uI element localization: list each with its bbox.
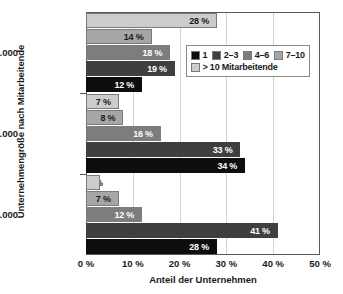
bar: 7 % — [86, 191, 119, 206]
legend-label: > 10 Mitarbeitende — [203, 62, 278, 72]
y-axis-tick — [80, 174, 86, 175]
bar: 19 % — [86, 61, 175, 76]
legend-label: 1 — [203, 50, 208, 60]
bar-chart: Unternehmengröße nach Mitarbeitende 28 %… — [0, 0, 343, 294]
x-axis-title: Anteil der Unternehmen — [86, 274, 320, 285]
bar — [86, 175, 100, 190]
bar-value-label: 7 % — [96, 194, 118, 204]
legend-swatch — [191, 63, 200, 72]
bar-value-label: 12 % — [114, 80, 141, 90]
legend-item[interactable]: 4–6 — [243, 50, 269, 60]
bar: 28 % — [86, 13, 217, 28]
bar-value-label: 28 % — [189, 242, 216, 252]
bar: 34 % — [86, 158, 245, 173]
y-axis-category-label: 500–1.000 — [0, 209, 18, 220]
bar-value-label: 14 % — [124, 32, 151, 42]
legend-label: 7–10 — [286, 50, 305, 60]
bar-value-label: 18 % — [143, 48, 170, 58]
bar: 7 % — [86, 94, 119, 109]
legend-label: 4–6 — [255, 50, 269, 60]
legend-swatch — [212, 51, 221, 60]
bar: 28 % — [86, 239, 217, 254]
legend-item[interactable]: 2–3 — [212, 50, 238, 60]
legend-row: > 10 Mitarbeitende — [191, 61, 305, 73]
bar-value-label: 7 % — [96, 97, 118, 107]
bar-value-label: 8 % — [101, 113, 123, 123]
bar-value-label: 28 % — [189, 16, 216, 26]
legend: 12–34–67–10 > 10 Mitarbeitende — [186, 45, 310, 77]
bar-value-label: 12 % — [114, 210, 141, 220]
bar-value-label: 33 % — [213, 145, 240, 155]
legend-item[interactable]: 1 — [191, 50, 207, 60]
bar: 16 % — [86, 126, 161, 141]
x-axis-tick-label: 40 % — [253, 258, 293, 269]
x-axis-tick-label: 20 % — [160, 258, 200, 269]
legend-label: 2–3 — [224, 50, 238, 60]
bar-value-label: 19 % — [147, 64, 174, 74]
y-axis-tick — [80, 93, 86, 94]
legend-swatch — [274, 51, 283, 60]
bar-value-label: 16 % — [133, 129, 160, 139]
legend-item[interactable]: 7–10 — [274, 50, 305, 60]
legend-item[interactable]: > 10 Mitarbeitende — [191, 62, 278, 72]
x-axis-tick-label: 50 % — [300, 258, 340, 269]
bar: 41 % — [86, 223, 278, 238]
bar-value-label: 34 % — [217, 161, 244, 171]
bar: 12 % — [86, 207, 142, 222]
legend-swatch — [191, 51, 200, 60]
x-axis-tick-label: 0 % — [66, 258, 106, 269]
bar: 14 % — [86, 29, 152, 44]
bar-value-label: 41 % — [250, 226, 277, 236]
y-axis-category-label: 1.001–5.000 — [0, 128, 18, 139]
legend-swatch — [243, 51, 252, 60]
bar: 18 % — [86, 45, 170, 60]
bar: 33 % — [86, 142, 240, 157]
y-axis-category-label: >5.000 — [0, 47, 18, 58]
x-axis-tick-label: 30 % — [206, 258, 246, 269]
bar: 12 % — [86, 77, 142, 92]
bar: 8 % — [86, 110, 123, 125]
x-axis-tick-label: 10 % — [113, 258, 153, 269]
legend-row: 12–34–67–10 — [191, 49, 305, 61]
